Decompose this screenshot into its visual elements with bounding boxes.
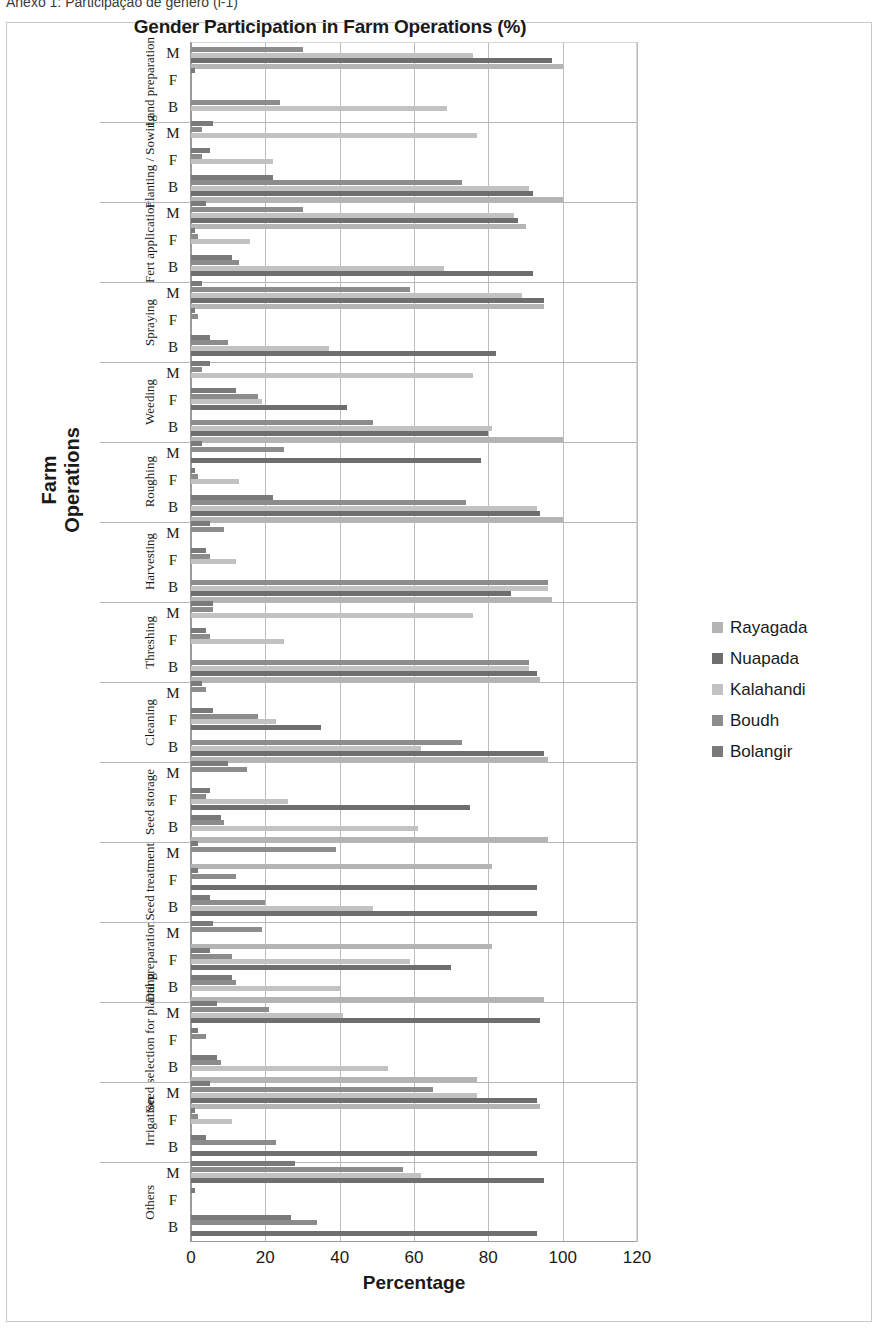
gender-label-b: B [162,1059,184,1076]
gender-label-f: F [162,632,184,649]
bar [191,293,522,298]
gender-label-b: B [162,739,184,756]
gender-label-b: B [162,819,184,836]
bar [191,1188,195,1193]
y-category-label: Fert application [143,202,157,282]
bar [191,213,514,218]
bar [191,1140,276,1145]
bar [191,639,284,644]
bar [191,986,340,991]
bar [191,921,213,926]
bar [191,885,537,890]
gender-label-m: M [162,45,184,62]
bar [191,281,202,286]
category-separator [100,602,637,603]
bar [191,927,262,932]
bar [191,121,213,126]
y-category-label: Harvesting [143,522,157,602]
chart-title: Gender Participation in Farm Operations … [0,16,660,38]
y-category-label: Cleaning [143,682,157,762]
bar [191,1034,206,1039]
bar [191,207,303,212]
bar [191,287,410,292]
gender-label-b: B [162,579,184,596]
bar [191,1028,198,1033]
legend-item[interactable]: Boudh [712,705,808,736]
bar [191,767,247,772]
bar [191,1167,403,1172]
bar [191,186,529,191]
bar [191,431,488,436]
category-separator [100,762,637,763]
bar [191,1081,210,1086]
bar [191,133,477,138]
gender-label-b: B [162,899,184,916]
gender-label-m: M [162,685,184,702]
legend-swatch-icon [712,653,723,664]
legend-item[interactable]: Bolangir [712,736,808,767]
bar [191,820,224,825]
bar [191,495,273,500]
bar [191,841,198,846]
bar [191,868,198,873]
gender-label-m: M [162,365,184,382]
bar [191,394,258,399]
category-separator [100,842,637,843]
bar [191,1161,295,1166]
gender-label-b: B [162,419,184,436]
legend-item[interactable]: Rayagada [712,612,808,643]
bar [191,1178,544,1183]
bar [191,506,537,511]
bar [191,346,329,351]
bar [191,1231,537,1236]
gender-label-m: M [162,285,184,302]
bar [191,1007,269,1012]
bar [191,426,492,431]
bar [191,660,529,665]
legend-item[interactable]: Nuapada [712,643,808,674]
category-separator [100,1162,637,1163]
bar [191,580,548,585]
gender-label-f: F [162,152,184,169]
x-gridline-120 [637,42,638,1242]
bar [191,218,518,223]
y-category-label: Seed storage [143,762,157,842]
bar [191,500,466,505]
y-category-label: Seed treatment [143,842,157,922]
category-separator [100,442,637,443]
chart-page: Anexo 1: Participação de gênero (i-1) Ge… [0,0,881,1330]
legend-label: Boudh [730,711,779,731]
gender-label-f: F [162,472,184,489]
y-category-label: Roughing [143,442,157,522]
bar [191,874,236,879]
bar [191,714,258,719]
category-separator [100,122,637,123]
figure-caption: Anexo 1: Participação de gênero (i-1) [6,0,238,10]
bar [191,1066,388,1071]
bar [191,154,202,159]
category-separator [100,1082,637,1083]
legend-label: Rayagada [730,618,808,638]
bar [191,1001,217,1006]
bar [191,719,276,724]
bar [191,794,206,799]
gender-label-m: M [162,765,184,782]
bar [191,601,213,606]
bar [191,740,462,745]
bar [191,746,421,751]
bar [191,340,228,345]
legend-item[interactable]: Kalahandi [712,674,808,705]
bar [191,474,198,479]
bar [191,468,195,473]
gender-label-b: B [162,1139,184,1156]
y-category-label: Planting / Sowing [143,122,157,202]
bar [191,805,470,810]
gender-label-b: B [162,499,184,516]
bar [191,1220,317,1225]
bar [191,511,540,516]
bar [191,554,210,559]
legend-label: Kalahandi [730,680,806,700]
bar [191,191,533,196]
bar [191,954,232,959]
bar [191,1087,433,1092]
